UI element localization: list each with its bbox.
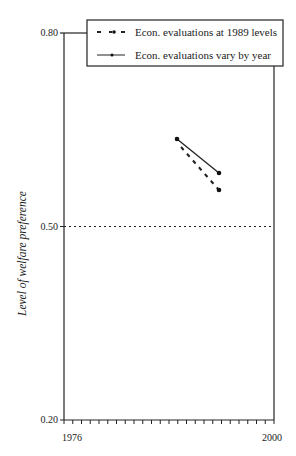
legend-item-vary-by-year: Econ. evaluations vary by year — [135, 49, 271, 61]
data-point — [217, 188, 222, 193]
y-tick-0.80: 0.80 — [41, 27, 59, 38]
legend-item-1989-levels: Econ. evaluations at 1989 levels — [135, 26, 277, 38]
series-vary-by-year-line — [177, 139, 219, 173]
x-tick-1976: 1976 — [62, 432, 82, 443]
y-tick-0.50: 0.50 — [41, 221, 59, 232]
y-tick-0.20: 0.20 — [41, 414, 59, 425]
chart: 0.80 0.50 0.20 1976 2000 Level of welfar… — [0, 0, 296, 456]
data-point — [217, 171, 222, 176]
legend: Econ. evaluations at 1989 levels Econ. e… — [87, 20, 283, 66]
x-tick-2000: 2000 — [262, 432, 282, 443]
data-point — [175, 137, 180, 142]
y-axis-label: Level of welfare preference — [16, 191, 29, 317]
